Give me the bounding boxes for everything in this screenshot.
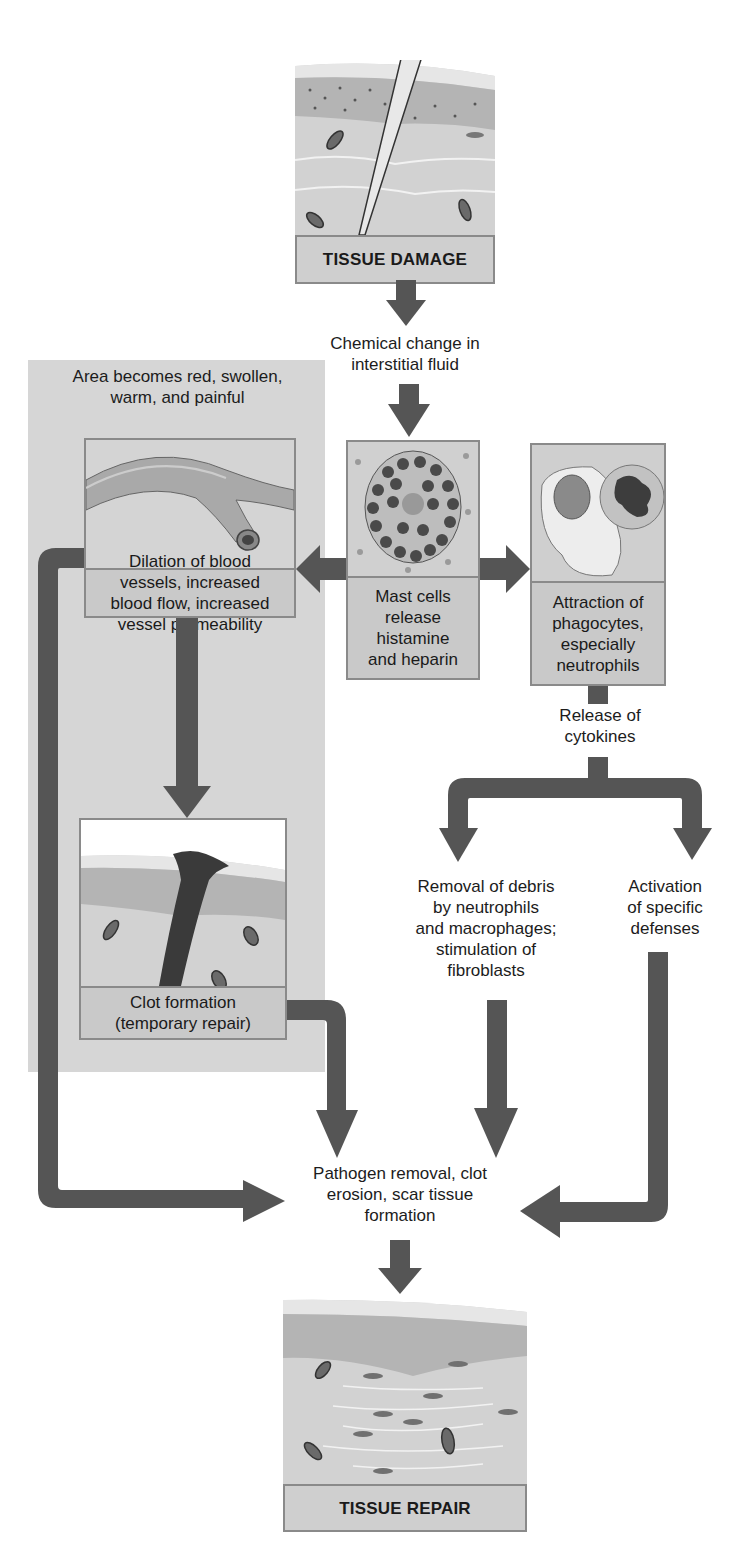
arrow-left-icon bbox=[296, 545, 346, 593]
arrow-down-icon bbox=[386, 280, 426, 326]
flow-arrows bbox=[0, 0, 745, 1544]
arrow-down-icon bbox=[163, 618, 211, 818]
arrow-right-icon bbox=[480, 545, 530, 593]
arrow-down-icon bbox=[388, 384, 430, 437]
